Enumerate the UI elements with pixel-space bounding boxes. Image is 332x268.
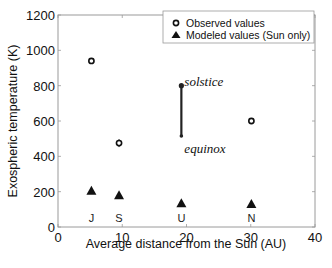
axis-tick-labels: 010203040020040060080010001200 xyxy=(26,8,322,245)
axis-ticks xyxy=(58,15,315,227)
y-tick-label: 600 xyxy=(33,114,55,129)
y-tick-label: 1200 xyxy=(26,8,55,23)
range-bars: solsticeequinox xyxy=(179,74,226,156)
modeled-point xyxy=(176,198,186,207)
legend-observed: Observed values xyxy=(186,17,265,29)
planet-labels: JSUN xyxy=(89,212,256,224)
y-tick-label: 200 xyxy=(33,185,55,200)
modeled-series xyxy=(86,186,256,208)
modeled-point xyxy=(246,199,256,208)
modeled-point xyxy=(114,190,124,199)
legend: Observed values Modeled values (Sun only… xyxy=(163,11,314,43)
planet-label: J xyxy=(89,212,95,224)
planet-label: U xyxy=(177,212,185,224)
solstice-label: solstice xyxy=(184,74,223,89)
y-tick-label: 0 xyxy=(48,220,55,235)
legend-modeled: Modeled values (Sun only) xyxy=(186,29,310,41)
observed-series xyxy=(89,58,254,147)
x-tick-label: 0 xyxy=(54,230,61,245)
y-tick-label: 800 xyxy=(33,79,55,94)
equinox-label: equinox xyxy=(184,141,225,156)
y-tick-label: 1000 xyxy=(26,43,55,58)
observed-point xyxy=(116,140,121,145)
observed-point xyxy=(89,58,94,63)
planet-label: S xyxy=(115,212,122,224)
y-axis-label: Exospheric temperature (K) xyxy=(6,45,20,198)
observed-point xyxy=(249,118,254,123)
x-tick-label: 40 xyxy=(308,230,322,245)
exospheric-temperature-chart: 010203040020040060080010001200 Average d… xyxy=(0,0,332,268)
x-axis-label: Average distance from the Sun (AU) xyxy=(86,237,287,251)
planet-label: N xyxy=(247,212,255,224)
y-tick-label: 400 xyxy=(33,149,55,164)
modeled-point xyxy=(86,186,96,195)
plot-frame xyxy=(58,15,315,227)
